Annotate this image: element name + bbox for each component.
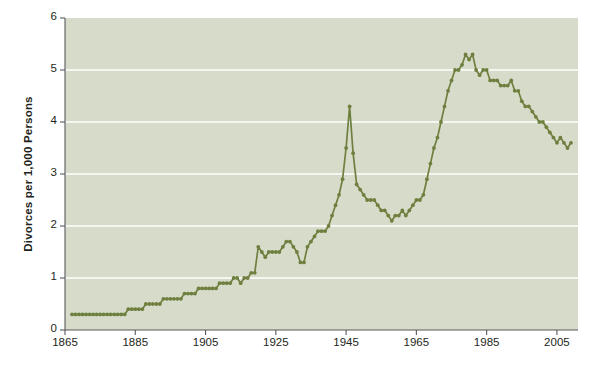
data-point: [439, 120, 443, 124]
data-point: [341, 177, 345, 181]
x-tick-label: 1925: [246, 336, 306, 348]
data-point: [365, 198, 369, 202]
data-point: [88, 313, 92, 317]
chart-figure: Divorces per 1,000 Persons 0123456 18651…: [0, 0, 595, 367]
y-tick-label: 6: [31, 10, 57, 22]
data-point: [390, 219, 394, 223]
x-tick-label: 1905: [176, 336, 236, 348]
data-point: [453, 68, 457, 72]
data-point: [358, 188, 362, 192]
data-point: [404, 214, 408, 218]
data-point: [200, 287, 204, 291]
data-point: [446, 89, 450, 93]
data-point: [386, 214, 390, 218]
data-point: [249, 271, 253, 275]
data-point: [186, 292, 190, 296]
data-point: [169, 297, 173, 301]
data-point: [334, 203, 338, 207]
data-point: [70, 313, 74, 317]
data-point: [544, 125, 548, 129]
data-point: [523, 105, 527, 109]
data-point: [147, 302, 151, 306]
data-point: [242, 276, 246, 280]
data-point: [351, 151, 355, 155]
data-point: [309, 240, 313, 244]
data-point: [179, 297, 183, 301]
data-point: [327, 224, 331, 228]
data-point: [130, 307, 134, 311]
x-tick-label: 1885: [105, 336, 165, 348]
data-point: [369, 198, 373, 202]
data-point: [520, 99, 524, 103]
data-point: [460, 63, 464, 67]
x-tick-label: 1945: [316, 336, 376, 348]
data-point: [495, 79, 499, 83]
data-point: [140, 307, 144, 311]
data-point: [246, 276, 250, 280]
data-point: [552, 136, 556, 140]
data-point: [137, 307, 141, 311]
data-point: [337, 193, 341, 197]
data-point: [295, 250, 299, 254]
data-point: [270, 250, 274, 254]
y-tick-label: 5: [31, 62, 57, 74]
data-point: [256, 245, 260, 249]
data-point: [161, 297, 165, 301]
data-point: [429, 162, 433, 166]
data-point: [566, 146, 570, 150]
data-point: [288, 240, 292, 244]
data-point: [516, 89, 520, 93]
data-point: [485, 68, 489, 72]
data-point: [151, 302, 155, 306]
data-point: [355, 183, 359, 187]
data-point: [284, 240, 288, 244]
data-point: [481, 68, 485, 72]
series-line: [72, 54, 571, 314]
y-tick-label: 2: [31, 218, 57, 230]
data-point: [281, 245, 285, 249]
data-point: [144, 302, 148, 306]
gridlines: [65, 70, 578, 278]
data-point: [81, 313, 85, 317]
data-point: [323, 229, 327, 233]
data-point: [77, 313, 81, 317]
x-tick-label: 1965: [386, 336, 446, 348]
data-point: [397, 214, 401, 218]
data-point: [464, 53, 468, 57]
data-point: [172, 297, 176, 301]
data-point: [193, 292, 197, 296]
data-point: [302, 261, 306, 265]
data-point: [176, 297, 180, 301]
data-point: [299, 261, 303, 265]
data-point: [313, 235, 317, 239]
data-point: [133, 307, 137, 311]
data-point: [98, 313, 102, 317]
data-point: [471, 53, 475, 57]
data-point: [422, 193, 426, 197]
data-point: [414, 198, 418, 202]
data-point: [478, 73, 482, 77]
data-point: [506, 84, 510, 88]
data-point: [84, 313, 88, 317]
y-tick-label: 3: [31, 166, 57, 178]
data-point: [474, 68, 478, 72]
data-point: [348, 105, 352, 109]
x-tick-label: 1865: [35, 336, 95, 348]
data-point: [239, 281, 243, 285]
data-point: [432, 146, 436, 150]
data-point: [425, 177, 429, 181]
data-point: [502, 84, 506, 88]
data-point: [221, 281, 225, 285]
data-point: [154, 302, 158, 306]
data-point: [158, 302, 162, 306]
data-point: [116, 313, 120, 317]
data-point: [492, 79, 496, 83]
data-point: [126, 307, 130, 311]
data-point: [74, 313, 78, 317]
data-point: [330, 214, 334, 218]
data-point: [291, 245, 295, 249]
data-point: [119, 313, 123, 317]
data-point: [204, 287, 208, 291]
data-point: [228, 281, 232, 285]
data-point: [393, 214, 397, 218]
